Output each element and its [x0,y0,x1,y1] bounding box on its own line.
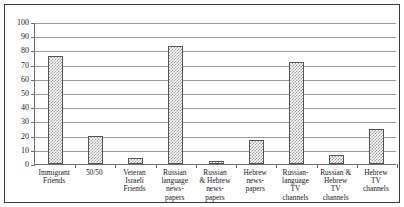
bar [209,161,224,164]
x-axis-tick [75,164,76,168]
x-axis-category-label: VeteranIsraeliFriends [114,169,154,194]
y-axis-tick-label: 10 [21,147,29,155]
y-axis-tick-label: 60 [21,76,29,84]
y-axis-tick [31,23,35,24]
gridline [35,108,396,109]
y-axis-tick-label: 90 [21,33,29,41]
x-axis-category-label-line: papers [195,194,235,202]
bar [48,56,63,164]
y-axis-tick [31,80,35,81]
x-axis-category-label-line: Friends [34,177,74,185]
bar [289,62,304,164]
y-axis-tick-label: 100 [17,19,29,27]
y-axis-tick-label: 80 [21,47,29,55]
x-axis-category-label: Russian &HebrewTVchannels [316,169,356,202]
gridline [35,23,396,24]
y-axis-tick [31,37,35,38]
figure-frame: 0102030405060708090100 ImmigrantFriends5… [4,4,400,203]
bar [168,46,183,164]
x-axis-category-label: Hebrewnews-papers [235,169,275,194]
x-axis-category-label: Russian& Hebrewnews-papers [195,169,235,202]
x-axis-category-label-line: papers [235,185,275,193]
x-axis-tick [115,164,116,168]
gridline [35,37,396,38]
x-axis-tick [276,164,277,168]
y-axis-tick [31,165,35,166]
y-axis-tick [31,94,35,95]
x-axis-category-label: HebrewTVchannels [356,169,396,194]
x-axis-category-label: Russianlanguagenews-papers [155,169,195,202]
gridline [35,94,396,95]
gridline [35,122,396,123]
x-axis-tick [236,164,237,168]
y-axis-tick [31,66,35,67]
y-axis-tick [31,137,35,138]
y-axis-tick-label: 30 [21,118,29,126]
x-axis-category-label-line: channels [356,185,396,193]
x-axis-tick [156,164,157,168]
y-axis-tick-label: 50 [21,90,29,98]
y-axis-tick [31,51,35,52]
y-axis-tick-label: 70 [21,62,29,70]
x-axis-tick [357,164,358,168]
plot-area: 0102030405060708090100 [34,23,396,165]
gridline [35,80,396,81]
bar [329,155,344,164]
x-axis-category-label-line: Friends [114,185,154,193]
x-axis-category-label: 50/50 [74,169,114,177]
x-axis-category-label-line: channels [275,194,315,202]
gridline [35,66,396,67]
x-axis-category-label-line: 50/50 [74,169,114,177]
x-axis-tick [196,164,197,168]
x-axis-category-label: ImmigrantFriends [34,169,74,185]
y-axis-tick [31,108,35,109]
y-axis-tick [31,151,35,152]
bar [128,158,143,164]
x-axis-tick [317,164,318,168]
y-axis-tick-label: 40 [21,104,29,112]
y-axis-tick [31,122,35,123]
gridline [35,51,396,52]
x-axis-category-label: Russian-languageTVchannels [275,169,315,202]
y-axis-tick-label: 0 [25,161,29,169]
bar [249,140,264,164]
chart-screenshot: 0102030405060708090100 ImmigrantFriends5… [0,0,404,207]
bar [88,136,103,164]
bar [369,129,384,165]
x-axis-category-label-line: papers [155,194,195,202]
x-axis-category-label-line: channels [316,194,356,202]
x-axis-tick [397,164,398,168]
y-axis-tick-label: 20 [21,133,29,141]
